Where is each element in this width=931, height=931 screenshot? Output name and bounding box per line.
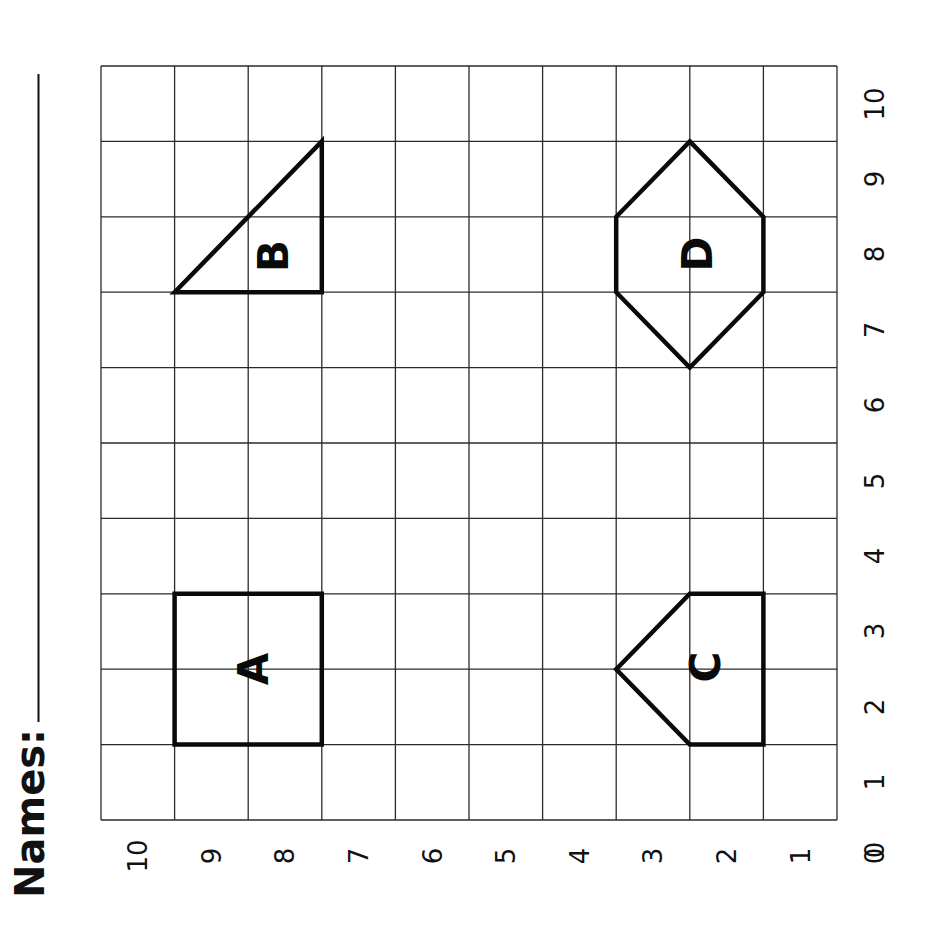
x-axis-ticks: 0 1 2 3 4 5 6 7 8 9 10 bbox=[860, 87, 890, 858]
shape-label-d: D bbox=[673, 237, 722, 272]
y-tick-4: 4 bbox=[565, 848, 595, 865]
x-tick-9: 9 bbox=[860, 171, 890, 188]
x-tick-7: 7 bbox=[860, 322, 890, 339]
worksheet-page: Names: B A C D 10 9 8 7 6 5 4 3 2 1 0 0 … bbox=[0, 0, 931, 931]
y-tick-2: 2 bbox=[712, 848, 742, 865]
y-tick-10: 10 bbox=[123, 839, 153, 872]
x-tick-6: 6 bbox=[860, 397, 890, 414]
shape-label-a: A bbox=[229, 652, 278, 685]
y-tick-7: 7 bbox=[344, 848, 374, 865]
y-tick-6: 6 bbox=[418, 848, 448, 865]
x-tick-3: 3 bbox=[860, 623, 890, 640]
y-tick-9: 9 bbox=[197, 848, 227, 865]
x-tick-5: 5 bbox=[860, 473, 890, 490]
y-tick-1: 1 bbox=[786, 848, 816, 865]
y-tick-3: 3 bbox=[638, 848, 668, 865]
shape-label-b: B bbox=[249, 240, 298, 272]
y-tick-8: 8 bbox=[270, 848, 300, 865]
x-tick-4: 4 bbox=[860, 548, 890, 565]
names-label: Names: bbox=[7, 729, 53, 898]
x-tick-0: 0 bbox=[860, 842, 890, 859]
y-tick-5: 5 bbox=[491, 848, 521, 865]
x-tick-10: 10 bbox=[860, 87, 890, 120]
x-tick-2: 2 bbox=[860, 699, 890, 716]
x-tick-1: 1 bbox=[860, 774, 890, 791]
shape-label-c: C bbox=[681, 652, 730, 683]
y-axis-ticks: 10 9 8 7 6 5 4 3 2 1 0 bbox=[123, 839, 890, 872]
x-tick-8: 8 bbox=[860, 246, 890, 263]
